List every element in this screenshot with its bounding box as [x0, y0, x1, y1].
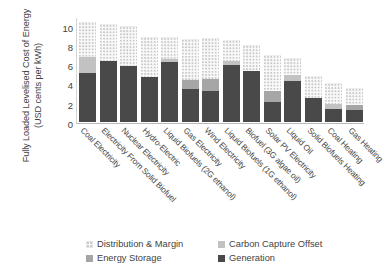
bar-column[interactable]: [161, 18, 178, 122]
chart-legend: Distribution & MarginCarbon Capture Offs…: [86, 237, 362, 265]
bar-segment-carbon-capture-offset: [79, 57, 96, 72]
x-axis-labels: Coal ElectricityElectricity From Solid B…: [76, 126, 364, 234]
bar-segment-distribution-margin: [243, 45, 260, 72]
bar-segment-generation: [223, 65, 240, 122]
bar-segment-generation: [264, 102, 281, 122]
legend-swatch-distribution-icon: [86, 241, 93, 248]
bar-column[interactable]: [264, 18, 281, 122]
bar-segment-generation: [305, 98, 322, 122]
legend-label: Carbon Capture Offset: [229, 239, 322, 249]
plot-area: 0246810: [76, 18, 364, 124]
y-tick-label: 2: [68, 99, 73, 110]
y-tick-label: 6: [68, 61, 73, 72]
bar-segment-generation: [202, 91, 219, 122]
bar-column[interactable]: [100, 18, 117, 122]
bar-segment-generation: [141, 77, 158, 122]
bar-column[interactable]: [182, 18, 199, 122]
bar-segment-energy-storage: [264, 91, 281, 102]
bar-segment-energy-storage: [202, 79, 219, 91]
bar-segment-generation: [325, 109, 342, 122]
bar-segment-generation: [243, 71, 260, 122]
y-tick-label: 0: [68, 119, 73, 130]
bar-segment-distribution-margin: [305, 76, 322, 98]
bar-column[interactable]: [284, 18, 301, 122]
bar-segment-generation: [100, 61, 117, 122]
bar-segment-distribution-margin: [141, 37, 158, 77]
bar-segment-generation: [79, 73, 96, 122]
legend-item[interactable]: Carbon Capture Offset: [218, 239, 362, 249]
legend-swatch-generation-icon: [218, 255, 225, 262]
legend-swatch-storage-icon: [86, 255, 93, 262]
plot-frame: 0246810: [76, 18, 364, 124]
y-axis-title: Fully Loaded Levelised Cost of Energy (U…: [21, 0, 44, 181]
bar-column[interactable]: [202, 18, 219, 122]
legend-label: Energy Storage: [97, 253, 162, 263]
bar-segment-distribution-margin: [325, 83, 342, 104]
bar-segment-distribution-margin: [120, 26, 137, 66]
bar-segment-energy-storage: [182, 80, 199, 90]
bar-segment-distribution-margin: [284, 58, 301, 74]
legend-item[interactable]: Generation: [218, 253, 362, 263]
bar-segment-distribution-margin: [182, 39, 199, 80]
legend-label: Distribution & Margin: [97, 239, 183, 249]
bar-segment-generation: [120, 66, 137, 122]
bar-segment-distribution-margin: [346, 88, 363, 104]
y-tick-label: 10: [62, 22, 73, 33]
legend-swatch-capture-icon: [218, 241, 225, 248]
y-tick-label: 4: [68, 80, 73, 91]
bar-segment-distribution-margin: [264, 55, 281, 92]
bar-column[interactable]: [325, 18, 342, 122]
bar-segment-distribution-margin: [79, 22, 96, 58]
bar-column[interactable]: [120, 18, 137, 122]
y-tick-label: 8: [68, 41, 73, 52]
bar-segment-generation: [182, 89, 199, 122]
bar-segment-distribution-margin: [100, 24, 117, 62]
bar-segment-generation: [346, 110, 363, 122]
bar-segment-generation: [161, 62, 178, 122]
bar-segment-distribution-margin: [161, 37, 178, 59]
bar-column[interactable]: [141, 18, 158, 122]
bar-segment-distribution-margin: [223, 40, 240, 62]
bar-column[interactable]: [223, 18, 240, 122]
bar-column[interactable]: [79, 18, 96, 122]
bar-column[interactable]: [305, 18, 322, 122]
bar-segment-generation: [284, 81, 301, 122]
legend-label: Generation: [229, 253, 275, 263]
bar-column[interactable]: [346, 18, 363, 122]
bar-series-group: [78, 18, 364, 122]
legend-item[interactable]: Distribution & Margin: [86, 239, 218, 249]
bar-segment-distribution-margin: [202, 38, 219, 79]
bar-column[interactable]: [243, 18, 260, 122]
legend-item[interactable]: Energy Storage: [86, 253, 218, 263]
